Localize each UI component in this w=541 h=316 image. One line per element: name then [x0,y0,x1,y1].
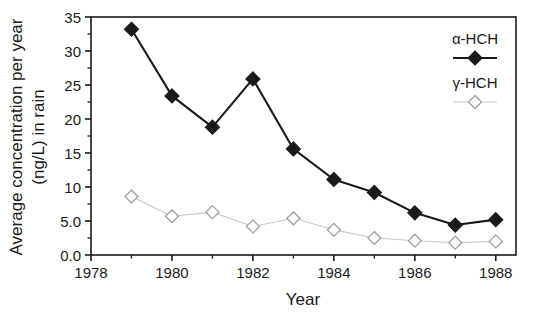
data-point [408,234,421,247]
line-chart: Average concentration per year (ng/L) in… [0,0,541,316]
chart-legend: α-HCHγ-HCH [452,30,498,109]
data-point [327,223,340,236]
legend-marker-sample [469,96,482,109]
series-gamma-hch [125,190,502,249]
x-tick-label: 1988 [479,264,512,281]
x-tick-label: 1984 [317,264,350,281]
y-axis-tick-labels: 0.05.0101520253035 [60,9,81,264]
legend-label: α-HCH [452,30,498,47]
series-layer [124,22,502,249]
data-point [124,22,138,36]
y-tick-label: 5.0 [60,213,81,230]
x-tick-label: 1986 [398,264,431,281]
data-point [367,185,381,199]
data-point [165,210,178,223]
data-point [287,212,300,225]
y-axis-title-line1: Average concentration per year [7,18,26,255]
data-point [449,236,462,249]
y-tick-label: 25 [64,77,81,94]
chart-figure: Average concentration per year (ng/L) in… [0,0,541,316]
y-axis-title: Average concentration per year (ng/L) in… [7,18,48,255]
data-point [246,220,259,233]
x-tick-label: 1978 [74,264,107,281]
y-tick-label: 10 [64,179,81,196]
x-axis-tick-labels: 197819801982198419861988 [74,264,512,281]
data-point [206,206,219,219]
y-tick-label: 35 [64,9,81,26]
data-point [125,190,138,203]
legend-entry-gamma-hch: γ-HCH [453,74,498,109]
legend-marker-sample [468,51,482,65]
y-tick-label: 0.0 [60,247,81,264]
x-axis-title: Year [286,290,321,309]
y-tick-label: 20 [64,111,81,128]
data-point [489,213,503,227]
series-alpha-hch [124,22,502,232]
legend-label: γ-HCH [453,74,498,91]
data-point [489,235,502,248]
y-tick-label: 30 [64,43,81,60]
y-axis-title-line2: (ng/L) in rain [29,89,48,184]
data-point [368,232,381,245]
data-point [408,206,422,220]
y-tick-label: 15 [64,145,81,162]
x-tick-label: 1982 [236,264,269,281]
data-point [448,218,462,232]
legend-entry-alpha-hch: α-HCH [452,30,498,65]
x-tick-label: 1980 [155,264,188,281]
